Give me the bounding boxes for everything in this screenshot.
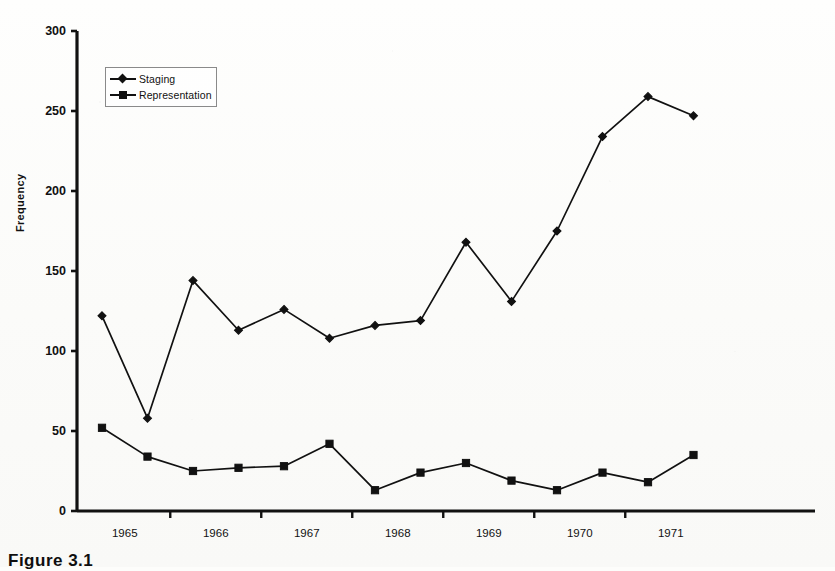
- legend-item-staging: Staging: [110, 71, 212, 87]
- data-point-marker-square: [98, 424, 105, 431]
- data-point-marker-square: [280, 463, 287, 470]
- legend-label-representation: Representation: [139, 89, 212, 101]
- y-axis-tick-label: 0: [59, 504, 66, 518]
- data-point-marker-square: [599, 469, 606, 476]
- x-axis-tick-label: 1971: [658, 527, 684, 539]
- y-axis-tick-label: 150: [45, 264, 66, 278]
- square-marker-icon: [110, 90, 136, 100]
- x-axis-tick-label: 1966: [203, 527, 229, 539]
- data-point-marker-square: [189, 467, 196, 474]
- data-point-marker-square: [508, 477, 515, 484]
- y-axis-tick-label: 250: [45, 104, 66, 118]
- data-point-marker-diamond: [690, 112, 698, 120]
- data-point-marker-square: [144, 453, 151, 460]
- data-point-marker-square: [644, 479, 651, 486]
- data-point-marker-square: [326, 440, 333, 447]
- chart-legend: Staging Representation: [105, 67, 217, 107]
- series-line-representation: [102, 428, 694, 490]
- data-point-marker-diamond: [417, 317, 425, 325]
- data-point-marker-square: [417, 469, 424, 476]
- figure-caption: Figure 3.1: [8, 551, 93, 571]
- y-axis-tick-label: 50: [52, 424, 66, 438]
- y-axis-tick-label: 200: [45, 184, 66, 198]
- data-point-marker-diamond: [371, 322, 379, 330]
- x-axis-tick-label: 1968: [385, 527, 411, 539]
- x-axis-tick-label: 1970: [567, 527, 593, 539]
- data-point-marker-square: [371, 487, 378, 494]
- data-point-marker-square: [462, 459, 469, 466]
- data-point-marker-diamond: [144, 414, 152, 422]
- data-point-marker-diamond: [98, 312, 106, 320]
- x-axis-tick-label: 1965: [112, 527, 138, 539]
- data-point-marker-square: [690, 451, 697, 458]
- series-line-staging: [102, 97, 694, 419]
- y-axis-tick-label: 300: [45, 24, 66, 38]
- diamond-marker-icon: [110, 74, 136, 84]
- x-axis-tick-label: 1969: [476, 527, 502, 539]
- data-point-marker-square: [553, 487, 560, 494]
- x-axis-tick-label: 1967: [294, 527, 320, 539]
- legend-item-representation: Representation: [110, 87, 212, 103]
- legend-label-staging: Staging: [139, 73, 175, 85]
- data-point-marker-square: [235, 464, 242, 471]
- y-axis-tick-label: 100: [45, 344, 66, 358]
